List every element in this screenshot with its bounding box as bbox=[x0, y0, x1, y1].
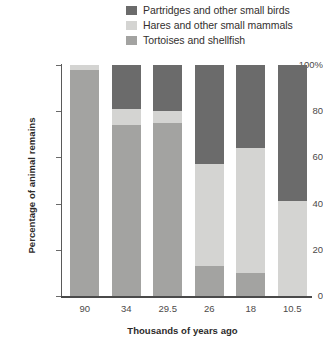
bar-26 bbox=[195, 65, 224, 296]
bar-segment bbox=[112, 125, 141, 296]
y-axis-tick bbox=[56, 111, 61, 112]
x-axis-tick-label: 18 bbox=[228, 303, 274, 314]
bar-segment bbox=[236, 65, 265, 148]
y-axis-tick bbox=[56, 250, 61, 251]
bar-segment bbox=[153, 123, 182, 296]
bar-29-5 bbox=[153, 65, 182, 296]
bar-segment bbox=[112, 65, 141, 109]
bar-segment bbox=[70, 70, 99, 296]
bar-segment bbox=[195, 65, 224, 164]
bar-10-5 bbox=[278, 65, 307, 296]
y-axis-tick bbox=[56, 157, 61, 158]
x-axis-tick-label: 34 bbox=[103, 303, 149, 314]
y-axis-tick bbox=[56, 204, 61, 205]
y-axis-title: Percentage of animal remains bbox=[26, 81, 37, 291]
plot-area bbox=[62, 65, 311, 296]
bar-90 bbox=[70, 65, 99, 296]
bar-segment bbox=[278, 201, 307, 296]
bar-segment bbox=[153, 111, 182, 123]
y-axis-tick bbox=[56, 296, 61, 297]
x-axis-tick-label: 10.5 bbox=[269, 303, 315, 314]
bar-34 bbox=[112, 65, 141, 296]
bar-segment bbox=[153, 65, 182, 111]
bar-segment bbox=[195, 164, 224, 266]
bar-segment bbox=[236, 148, 265, 273]
x-axis-title: Thousands of years ago bbox=[50, 325, 315, 336]
bar-18 bbox=[236, 65, 265, 296]
x-axis-tick-label: 29.5 bbox=[145, 303, 191, 314]
bar-segment bbox=[236, 273, 265, 296]
bar-segment bbox=[195, 266, 224, 296]
y-axis-tick bbox=[56, 65, 61, 66]
stacked-bar-chart: Percentage of animal remains 02040608010… bbox=[0, 0, 323, 351]
bar-segment bbox=[112, 109, 141, 125]
x-axis-tick-label: 90 bbox=[62, 303, 108, 314]
x-axis-tick-label: 26 bbox=[186, 303, 232, 314]
bar-segment bbox=[278, 65, 307, 201]
